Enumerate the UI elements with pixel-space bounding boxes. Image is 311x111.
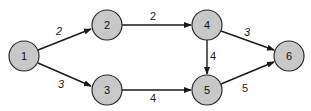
weight-label-1-2: 2	[55, 25, 62, 37]
node-label: 6	[286, 50, 292, 62]
node-label: 2	[104, 19, 110, 31]
weight-label-2-4: 2	[150, 10, 156, 22]
node-2: 2	[92, 10, 122, 40]
node-1: 1	[9, 41, 39, 71]
weight-label-1-3: 3	[58, 78, 65, 90]
node-label: 3	[104, 84, 110, 96]
weight-label-5-6: 5	[242, 82, 248, 94]
node-4: 4	[192, 10, 222, 40]
node-label: 5	[204, 84, 210, 96]
weight-label-4-5: 4	[210, 50, 216, 62]
node-label: 1	[21, 50, 27, 62]
node-6: 6	[274, 41, 304, 71]
network-diagram: 2 3 2 4 4 3 5 1 2 3 4 5 6	[0, 0, 311, 111]
node-label: 4	[204, 19, 210, 31]
node-3: 3	[92, 75, 122, 105]
edge-5-6	[221, 62, 274, 84]
edge-1-2	[38, 29, 91, 50]
weight-label-3-5: 4	[150, 92, 156, 104]
node-5: 5	[192, 75, 222, 105]
weight-label-4-6: 3	[244, 26, 251, 38]
edge-1-3	[38, 63, 91, 86]
